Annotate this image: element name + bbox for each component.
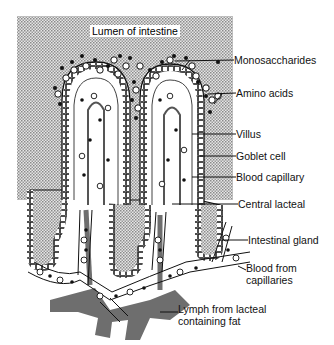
label-villus: Villus (236, 128, 261, 140)
label-monosaccharides: Monosaccharides (234, 54, 316, 66)
label-central-lacteal: Central lacteal (238, 198, 305, 210)
label-amino-acids: Amino acids (236, 87, 293, 99)
label-goblet-cell: Goblet cell (236, 150, 286, 162)
label-blood-capillary: Blood capillary (236, 171, 304, 183)
lumen-label: Lumen of intestine (90, 25, 180, 37)
label-intestinal-gland: Intestinal gland (248, 234, 319, 246)
villus-left (62, 62, 130, 205)
intestinal-gland-middle (112, 200, 148, 275)
label-blood-from-capillaries: Blood from capillaries (246, 262, 297, 286)
label-lymph-from-lacteal: Lymph from lacteal containing fat (178, 303, 266, 327)
